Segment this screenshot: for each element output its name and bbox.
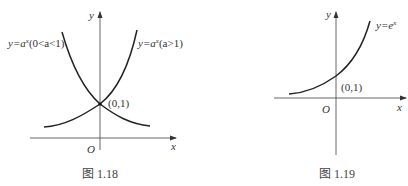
point-0-1-marker	[98, 102, 101, 105]
curve-label: y=ex	[375, 19, 397, 31]
y-axis-label: y	[88, 9, 94, 21]
origin-label: O	[322, 103, 330, 115]
x-axis-label: x	[396, 101, 402, 113]
x-axis-label: x	[170, 140, 176, 152]
figure-caption: 图 1.19	[319, 167, 355, 181]
point-label: (0,1)	[341, 81, 362, 94]
point-label: (0,1)	[108, 97, 129, 110]
figures-canvas: y=ax(0<a<1) y=ax(a>1) (0,1) O x y 图 1.18…	[0, 0, 408, 186]
y-axis-label: y	[325, 8, 331, 20]
figure-caption: 图 1.18	[82, 167, 118, 181]
curve-label-increasing: y=ax(a>1)	[137, 37, 183, 50]
curve-label-decreasing: y=ax(0<a<1)	[7, 37, 65, 50]
origin-label: O	[87, 143, 95, 155]
figure-1-19: y=ex (0,1) O x y 图 1.19	[274, 8, 406, 181]
curve-decreasing	[62, 32, 150, 126]
figure-1-18: y=ax(0<a<1) y=ax(a>1) (0,1) O x y 图 1.18	[7, 9, 183, 181]
